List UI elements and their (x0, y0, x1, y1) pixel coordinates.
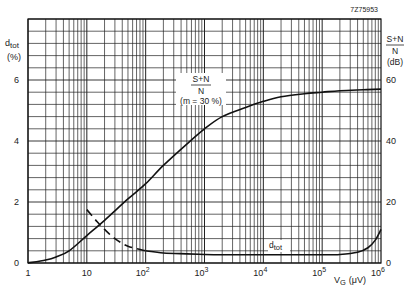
snr-annotation-cond: (m = 30 %) (180, 96, 222, 106)
snr-annotation-num: S+N (193, 74, 210, 84)
right-axis-title-den: N (392, 46, 398, 56)
x-tick: 10 (82, 268, 92, 278)
left-tick: 6 (14, 75, 19, 85)
left-tick: 4 (14, 136, 19, 146)
right-tick: 0 (386, 258, 391, 268)
x-tick: 105 (312, 266, 326, 278)
right-tick: 40 (386, 136, 396, 146)
x-ticks: 110102103104105106 (25, 266, 385, 278)
left-tick: 0 (14, 258, 19, 268)
chart-canvas: 7Z75953 dtot (%) 0 2 4 6 S+N N (dB) 0 20… (0, 0, 409, 296)
grid (28, 19, 381, 263)
left-tick: 2 (14, 197, 19, 207)
x-tick: 104 (253, 266, 267, 278)
right-tick: 20 (386, 197, 396, 207)
left-axis-unit: (%) (7, 52, 21, 62)
x-axis-title: VG(μV) (334, 275, 366, 287)
snr-annotation-den: N (198, 86, 204, 96)
x-tick: 103 (195, 266, 209, 278)
left-axis-title: dtot (5, 38, 20, 50)
x-tick: 106 (371, 266, 385, 278)
right-axis-title-num: S+N (387, 34, 404, 44)
x-tick: 1 (25, 268, 30, 278)
right-tick: 60 (386, 75, 396, 85)
figure-id: 7Z75953 (350, 6, 378, 13)
x-tick: 102 (136, 266, 150, 278)
dtot-annotation: dtot (268, 240, 290, 252)
snr-annotation: S+N N (m = 30 %) (176, 73, 226, 106)
right-axis-unit: (dB) (387, 57, 403, 67)
